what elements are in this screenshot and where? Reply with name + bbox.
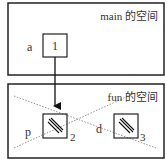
hatch-icon xyxy=(119,118,134,133)
main-space: main 的空间 a 1 xyxy=(8,3,164,75)
variable-d-box xyxy=(114,114,138,138)
variable-a-value: 1 xyxy=(52,39,58,53)
hatch-icon xyxy=(48,118,63,133)
variable-p-label: p xyxy=(25,125,31,139)
cross-line-1 xyxy=(14,96,156,148)
fun-space: fun 的空间 p 2 d 3 xyxy=(8,84,164,158)
variable-a-label: a xyxy=(27,40,33,54)
fun-space-title: fun 的空间 xyxy=(108,90,158,103)
variable-d-label: d xyxy=(96,122,102,136)
memory-diagram: main 的空间 a 1 fun 的空间 p 2 d 3 xyxy=(0,0,167,163)
address-2-label: 2 xyxy=(70,131,76,143)
address-3-label: 3 xyxy=(140,131,146,143)
main-space-title: main 的空间 xyxy=(100,9,158,22)
